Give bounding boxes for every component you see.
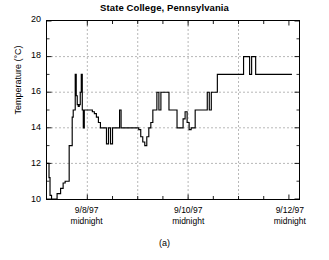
plot-area xyxy=(46,20,300,200)
y-tick-label: 16 xyxy=(13,87,41,96)
y-tick-label: 10 xyxy=(13,195,41,204)
x-tick-date: 9/8/97 xyxy=(47,205,127,216)
figure-panel: State College, Pennsylvania Temperature … xyxy=(0,0,329,260)
x-tick-label: 9/10/97midnight xyxy=(148,205,228,227)
chart-title: State College, Pennsylvania xyxy=(0,2,329,14)
x-tick-date: 9/12/97 xyxy=(250,205,329,216)
x-tick-date: 9/10/97 xyxy=(148,205,228,216)
y-tick-label: 20 xyxy=(13,15,41,24)
figure-caption: (a) xyxy=(0,238,329,248)
x-tick-time: midnight xyxy=(250,216,329,227)
x-tick-time: midnight xyxy=(148,216,228,227)
x-tick-label: 9/12/97midnight xyxy=(250,205,329,227)
x-tick-label: 9/8/97midnight xyxy=(47,205,127,227)
y-tick-label: 18 xyxy=(13,51,41,60)
x-tick-time: midnight xyxy=(47,216,127,227)
y-tick-label: 14 xyxy=(13,123,41,132)
temperature-line-chart xyxy=(47,21,299,199)
y-tick-label: 12 xyxy=(13,159,41,168)
